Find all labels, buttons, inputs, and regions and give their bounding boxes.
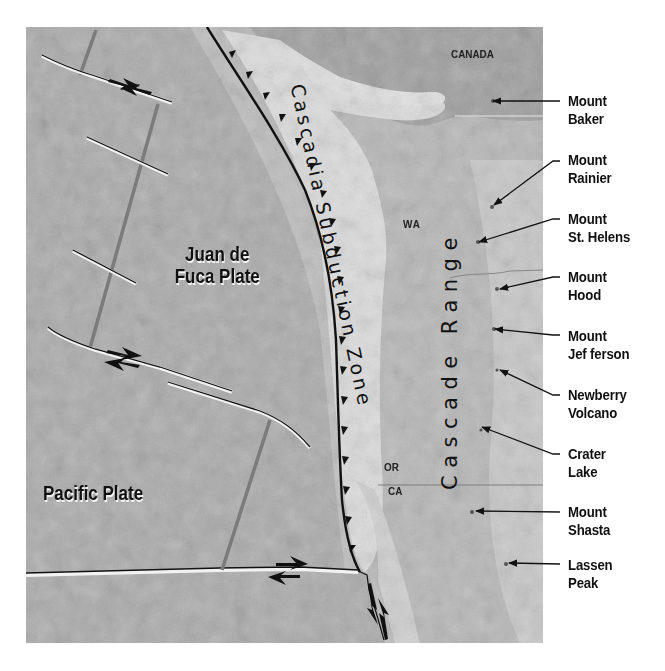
volcano-label-mount-baker: Mount Baker bbox=[568, 92, 607, 128]
volcano-label-mount-st-helens: Mount St. Helens bbox=[568, 210, 630, 246]
volcano-name-line2: Hood bbox=[568, 286, 607, 304]
map-graphic bbox=[0, 0, 665, 671]
volcano-name-line1: Mount bbox=[568, 327, 629, 345]
volcano-name-line2: Peak bbox=[568, 574, 612, 592]
juan-de-fuca-line2: Fuca Plate bbox=[162, 265, 273, 287]
volcano-name-line1: Mount bbox=[568, 210, 630, 228]
volcano-name-line1: Lassen bbox=[568, 556, 612, 574]
volcano-name-line1: Newberry bbox=[568, 386, 627, 404]
volcano-name-line1: Mount bbox=[568, 268, 607, 286]
juan-de-fuca-line1: Juan de bbox=[162, 243, 273, 265]
volcano-name-line2: Jef ferson bbox=[568, 345, 629, 363]
volcano-name-line1: Mount bbox=[568, 151, 612, 169]
volcano-label-crater-lake: Crater Lake bbox=[568, 445, 606, 481]
cascadia-map: Juan de Fuca Plate Pacific Plate CANADA … bbox=[0, 0, 665, 671]
ca-label: CA bbox=[388, 485, 402, 497]
cascade-range-label: Cascade Range bbox=[438, 230, 462, 490]
volcano-name-line2: Rainier bbox=[568, 169, 612, 187]
volcano-label-newberry-volcano: Newberry Volcano bbox=[568, 386, 627, 422]
volcano-label-lassen-peak: Lassen Peak bbox=[568, 556, 612, 592]
juan-de-fuca-plate-label: Juan de Fuca Plate bbox=[162, 243, 273, 287]
volcano-name-line1: Mount bbox=[568, 92, 607, 110]
volcano-name-line2: St. Helens bbox=[568, 228, 630, 246]
volcano-name-line2: Volcano bbox=[568, 404, 627, 422]
pacific-line1: Pacific Plate bbox=[43, 482, 143, 504]
volcano-name-line1: Mount bbox=[568, 503, 610, 521]
volcano-name-line2: Shasta bbox=[568, 521, 610, 539]
volcano-label-mount-shasta: Mount Shasta bbox=[568, 503, 610, 539]
wa-label: WA bbox=[403, 218, 421, 230]
canada-label: CANADA bbox=[451, 48, 494, 60]
volcano-label-mount-hood: Mount Hood bbox=[568, 268, 607, 304]
volcano-name-line1: Crater bbox=[568, 445, 606, 463]
pacific-plate-label: Pacific Plate bbox=[43, 482, 143, 504]
volcano-name-line2: Baker bbox=[568, 110, 607, 128]
volcano-label-mount-jefferson: Mount Jef ferson bbox=[568, 327, 629, 363]
or-label: OR bbox=[384, 461, 399, 473]
volcano-label-mount-rainier: Mount Rainier bbox=[568, 151, 612, 187]
volcano-name-line2: Lake bbox=[568, 463, 606, 481]
